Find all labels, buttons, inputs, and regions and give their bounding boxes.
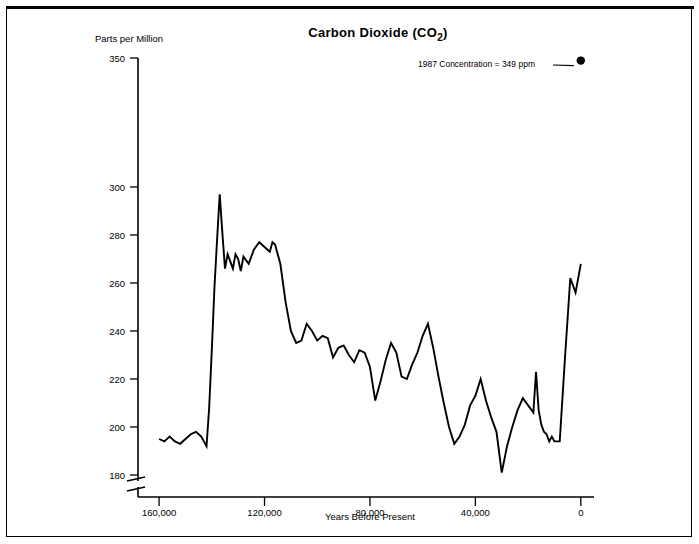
x-tick-label: 160,000	[142, 507, 176, 518]
figure-frame: Carbon Dioxide (CO2) Parts per Million Y…	[6, 6, 692, 537]
x-tick-label: 120,000	[247, 507, 281, 518]
y-tick-label: 280	[109, 230, 125, 241]
annotation-label: 1987 Concentration = 349 ppm	[418, 59, 535, 69]
x-tick-label: 80,000	[355, 507, 384, 518]
y-tick-label: 220	[109, 374, 125, 385]
y-axis-label: Parts per Million	[95, 33, 163, 44]
y-tick-group: 180200220240260280300350	[109, 53, 138, 481]
annotation-1987: 1987 Concentration = 349 ppm	[418, 56, 585, 69]
y-tick-label: 240	[109, 326, 125, 337]
co2-chart: Carbon Dioxide (CO2) Parts per Million Y…	[7, 7, 693, 538]
y-axis-break	[127, 475, 145, 497]
x-tick-group: 160,000120,00080,00040,0000	[142, 497, 584, 518]
x-tick-label: 40,000	[461, 507, 490, 518]
annotation-marker-dot	[577, 56, 585, 64]
annotation-leader-line	[553, 65, 574, 66]
x-tick-label: 0	[578, 507, 583, 518]
chart-title: Carbon Dioxide (CO2)	[308, 25, 447, 43]
co2-data-line	[159, 194, 581, 472]
y-tick-label: 180	[109, 470, 125, 481]
y-tick-label: 200	[109, 422, 125, 433]
chart-title-main: Carbon Dioxide (CO	[308, 25, 437, 40]
y-tick-label: 300	[109, 182, 125, 193]
chart-title-tail: )	[443, 25, 448, 40]
y-axis: 180200220240260280300350	[109, 53, 145, 498]
x-axis: 160,000120,00080,00040,0000	[138, 497, 594, 518]
y-tick-label: 260	[109, 278, 125, 289]
y-tick-label: 350	[109, 53, 125, 64]
